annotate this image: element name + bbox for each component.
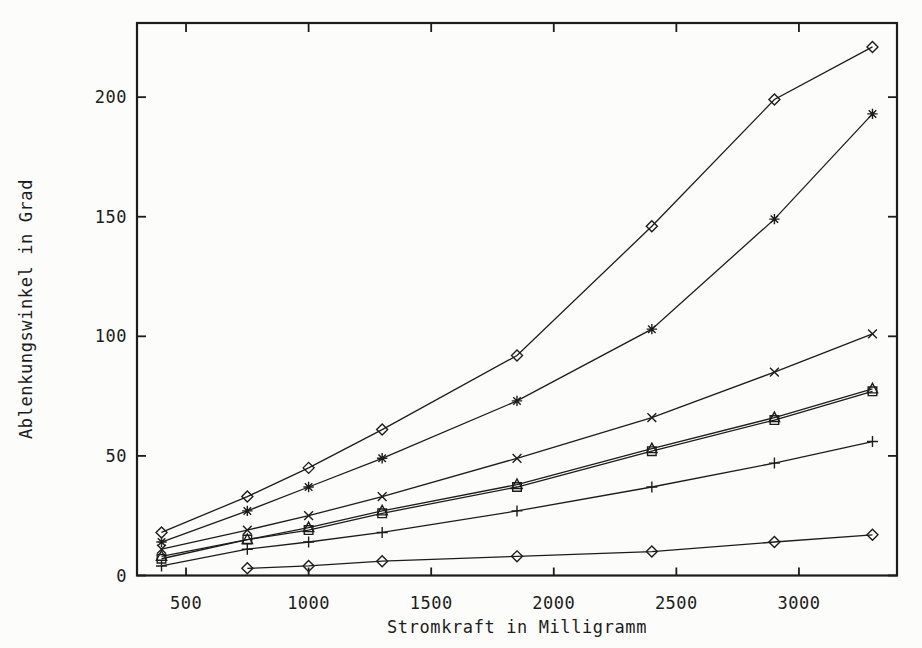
plot-frame bbox=[137, 23, 897, 576]
plus-marker bbox=[769, 458, 780, 469]
x-marker bbox=[868, 330, 877, 339]
series-line-kurve-1-raute bbox=[162, 47, 873, 533]
star-marker bbox=[377, 453, 387, 463]
x-axis-title: Stromkraft in Milligramm bbox=[137, 617, 897, 637]
x-marker bbox=[378, 492, 387, 501]
x-tick-label: 3000 bbox=[777, 593, 820, 613]
scanned-line-chart-page: 50010001500200025003000050100150200 Stro… bbox=[0, 0, 922, 648]
star-marker bbox=[512, 396, 522, 406]
x-tick-label: 1500 bbox=[410, 593, 453, 613]
y-tick-label: 50 bbox=[106, 446, 127, 466]
plus-marker bbox=[242, 544, 253, 555]
x-marker bbox=[647, 413, 656, 422]
y-axis-title: Ablenkungswinkel in Grad bbox=[16, 179, 36, 439]
x-marker bbox=[513, 454, 522, 463]
star-marker bbox=[303, 482, 313, 492]
y-tick-label: 200 bbox=[95, 87, 127, 107]
x-tick-label: 500 bbox=[170, 593, 202, 613]
series-line-kurve-3-kreuz bbox=[162, 334, 873, 549]
plus-marker bbox=[377, 527, 388, 538]
x-tick-label: 1000 bbox=[287, 593, 330, 613]
series-line-kurve-5-quadrat bbox=[162, 391, 873, 558]
plus-marker bbox=[303, 537, 314, 548]
plus-marker bbox=[867, 436, 878, 447]
x-tick-label: 2500 bbox=[655, 593, 698, 613]
star-marker bbox=[647, 324, 657, 334]
star-marker bbox=[867, 109, 877, 119]
x-marker bbox=[304, 511, 313, 520]
x-tick-label: 2000 bbox=[532, 593, 575, 613]
y-tick-label: 150 bbox=[95, 207, 127, 227]
star-marker bbox=[242, 506, 252, 516]
y-tick-label: 0 bbox=[116, 566, 127, 586]
plus-marker bbox=[512, 505, 523, 516]
line-chart-plot: 50010001500200025003000050100150200 bbox=[0, 0, 922, 648]
x-marker bbox=[770, 368, 779, 377]
y-tick-label: 100 bbox=[95, 326, 127, 346]
plus-marker bbox=[646, 482, 657, 493]
series-line-kurve-4-dreieck bbox=[162, 389, 873, 556]
star-marker bbox=[769, 214, 779, 224]
series-line-kurve-6-plus bbox=[162, 442, 873, 566]
